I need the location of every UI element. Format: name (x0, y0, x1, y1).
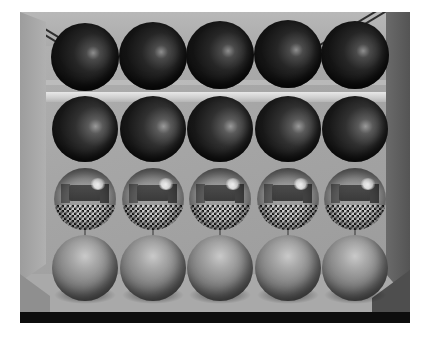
floor-front-edge (20, 312, 410, 323)
sphere-r1c1 (51, 23, 119, 91)
sphere-r1c2 (119, 22, 187, 90)
sphere-r1c3 (186, 21, 254, 89)
sphere-r4c3 (187, 235, 253, 301)
render-canvas (0, 0, 427, 338)
sphere-r1c5 (321, 21, 389, 89)
sphere-r4c5 (322, 235, 388, 301)
sphere-r2c5 (322, 96, 388, 162)
sphere-reflection-vig (257, 168, 319, 230)
sphere-r2c2 (120, 96, 186, 162)
sphere-r3c1 (54, 168, 116, 230)
sphere-r4c4 (255, 235, 321, 301)
sphere-r4c1 (52, 235, 118, 301)
sphere-r3c5 (324, 168, 386, 230)
sphere-r3c2 (122, 168, 184, 230)
scene-frame (20, 12, 410, 323)
sphere-r1c4 (254, 20, 322, 88)
left-wall (20, 12, 46, 282)
right-wall (386, 12, 410, 302)
sphere-reflection-vig (189, 168, 251, 230)
sphere-r3c3 (189, 168, 251, 230)
sphere-r2c3 (187, 96, 253, 162)
sphere-r2c1 (52, 96, 118, 162)
sphere-r2c4 (255, 96, 321, 162)
sphere-r4c2 (120, 235, 186, 301)
sphere-r3c4 (257, 168, 319, 230)
sphere-reflection-vig (122, 168, 184, 230)
sphere-reflection-vig (324, 168, 386, 230)
sphere-reflection-vig (54, 168, 116, 230)
